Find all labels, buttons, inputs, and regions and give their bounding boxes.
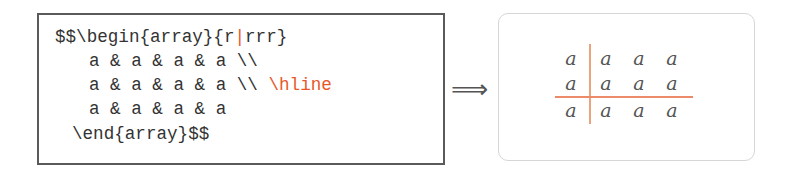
code-text: \end{array}$$ [72,124,209,144]
array-cell: a [662,48,682,68]
array-cell: a [629,48,649,68]
code-text: a & a & a & a \\ [89,75,269,95]
implies-arrow-icon: ⟹ [451,78,488,100]
array-cell: a [629,73,649,93]
rendered-output-box [498,13,755,161]
code-line-begin: $$\begin{array}{r|rrr} [55,27,287,47]
array-cell: a [561,73,581,93]
array-cell: a [596,73,616,93]
code-text: a & a & a & a [89,99,226,119]
code-line-row-2: a & a & a & a \\ \hline [89,75,332,95]
horizontal-rule [555,96,693,98]
highlighted-hline-command: \hline [269,75,332,95]
array-cell: a [662,100,682,120]
highlighted-column-separator: | [235,27,246,47]
vertical-rule [589,44,591,124]
array-cell: a [561,100,581,120]
code-text: $$\begin{array}{r [55,27,235,47]
array-cell: a [596,100,616,120]
array-cell: a [629,100,649,120]
array-cell: a [662,73,682,93]
code-line-end: \end{array}$$ [72,124,209,144]
array-cell: a [561,48,581,68]
code-line-row-3: a & a & a & a [89,99,226,119]
array-cell: a [596,48,616,68]
code-text: a & a & a & a \\ [89,51,258,71]
code-line-row-1: a & a & a & a \\ [89,51,258,71]
code-text: rrr} [245,27,287,47]
